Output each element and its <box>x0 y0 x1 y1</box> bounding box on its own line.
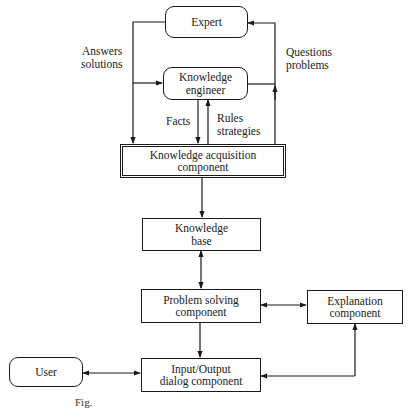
node-user-label: User <box>35 366 57 379</box>
node-knowledge-engineer-line2: engineer <box>186 84 226 97</box>
node-knowledge-engineer-line1: Knowledge <box>179 71 232 84</box>
node-knowledge-base: Knowledge base <box>142 218 261 251</box>
node-expert-label: Expert <box>191 16 222 29</box>
edge-label-answers-line1: Answers <box>81 45 123 58</box>
edge-label-facts: Facts <box>166 115 190 128</box>
edge-label-answers-line2: solutions <box>81 58 123 71</box>
node-knowledge-acquisition-line1: Knowledge acquisition <box>150 149 256 162</box>
node-user: User <box>9 357 83 387</box>
edge-label-rules: Rules strategies <box>217 112 260 137</box>
edge-label-rules-line1: Rules <box>217 112 260 125</box>
edge-label-rules-line2: strategies <box>217 125 260 138</box>
edge-label-answers: Answers solutions <box>81 45 123 70</box>
node-expert: Expert <box>165 6 248 38</box>
node-io-dialog-line2: dialog component <box>160 375 243 388</box>
edge-label-facts-line1: Facts <box>166 115 190 128</box>
node-problem-solving-line1: Problem solving <box>163 294 239 307</box>
node-problem-solving-line2: component <box>175 306 226 319</box>
figure-caption: Fig. <box>75 396 92 408</box>
node-explanation-line2: component <box>329 307 380 320</box>
node-io-dialog: Input/Output dialog component <box>141 358 261 392</box>
node-explanation-line1: Explanation <box>327 295 383 308</box>
node-knowledge-base-line1: Knowledge <box>175 222 228 235</box>
node-knowledge-base-line2: base <box>191 235 211 248</box>
edge-label-questions-line2: problems <box>286 59 332 72</box>
node-explanation: Explanation component <box>307 290 403 324</box>
edge-label-questions-line1: Questions <box>286 46 332 59</box>
node-knowledge-engineer: Knowledge engineer <box>163 67 248 100</box>
edge-label-questions: Questions problems <box>286 46 332 71</box>
node-io-dialog-line1: Input/Output <box>171 363 230 376</box>
node-knowledge-acquisition-line2: component <box>177 161 228 174</box>
node-knowledge-acquisition: Knowledge acquisition component <box>120 144 286 178</box>
node-problem-solving: Problem solving component <box>141 289 261 323</box>
